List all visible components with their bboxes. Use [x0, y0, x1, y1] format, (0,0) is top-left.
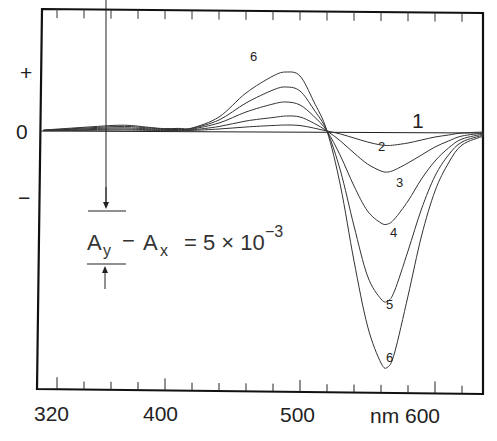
curve-label-3: 3: [396, 175, 403, 190]
plot-border: [37, 9, 483, 394]
scale-a1: A: [87, 230, 102, 255]
chart: 1234566 320 400 500 nm 600 + 0 − A y − A…: [0, 0, 497, 441]
x-tick-label-320: 320: [34, 402, 69, 425]
curve-label-4: 4: [390, 225, 397, 240]
scale-minus: −: [122, 228, 135, 253]
curve-label-2: 2: [378, 139, 385, 154]
y-label-zero: 0: [16, 120, 28, 143]
scale-equation: A y − A x = 5 × 10 −3: [87, 223, 283, 259]
axis-ticks: [57, 9, 462, 394]
x-tick-label-500: 500: [280, 403, 315, 426]
plot-frame: [37, 9, 483, 394]
curve-label-5: 5: [386, 297, 393, 312]
curve-label-1: 1: [412, 109, 424, 132]
scale-s2: x: [160, 242, 168, 259]
scale-s1: y: [103, 242, 111, 259]
x-tick-label-400: 400: [143, 402, 178, 425]
scale-rhs: = 5 × 10: [184, 230, 265, 255]
curve-labels: 1234566: [250, 49, 424, 365]
scale-a2: A: [143, 230, 158, 255]
curve-label-6-bottom: 6: [386, 350, 393, 365]
curve-label-6-top: 6: [250, 49, 257, 64]
y-label-minus: −: [18, 186, 30, 209]
y-label-plus: +: [20, 61, 32, 84]
scale-exponent: −3: [265, 223, 283, 240]
x-tick-label-600: nm 600: [370, 404, 440, 427]
